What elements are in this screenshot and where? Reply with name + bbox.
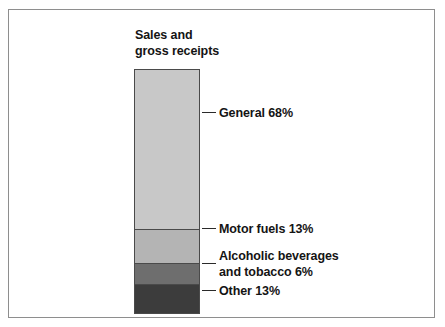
leader-line-other xyxy=(202,290,216,291)
segment-label-other-line-1: Other 13% xyxy=(219,283,280,299)
segment-label-alcoholic-beverages-and-tobacco: Alcoholic beverages and tobacco 6% xyxy=(219,248,339,280)
leader-line-general xyxy=(202,112,216,113)
stacked-bar xyxy=(134,69,200,314)
chart-frame: Sales and gross receipts General 68% Mot… xyxy=(8,9,435,318)
leader-line-motor-fuels xyxy=(202,228,216,229)
segment-label-alcoholic-line-2: and tobacco 6% xyxy=(219,264,339,280)
bar-segment-alcoholic-beverages-and-tobacco xyxy=(135,264,199,285)
chart-title-line-1: Sales and xyxy=(135,27,285,43)
bar-segment-general xyxy=(135,70,199,230)
segment-label-general-line-1: General 68% xyxy=(219,105,293,121)
segment-label-other: Other 13% xyxy=(219,283,280,299)
segment-label-alcoholic-line-1: Alcoholic beverages xyxy=(219,248,339,264)
segment-label-motor-fuels: Motor fuels 13% xyxy=(219,221,313,237)
leader-line-alcoholic-beverages-and-tobacco xyxy=(202,263,216,264)
segment-label-general: General 68% xyxy=(219,105,293,121)
chart-title-line-2: gross receipts xyxy=(135,43,285,59)
chart-title: Sales and gross receipts xyxy=(135,27,285,59)
bar-segment-motor-fuels xyxy=(135,230,199,264)
bar-segment-other xyxy=(135,285,199,313)
chart-figure: Sales and gross receipts General 68% Mot… xyxy=(0,0,445,327)
segment-label-motor-fuels-line-1: Motor fuels 13% xyxy=(219,221,313,237)
